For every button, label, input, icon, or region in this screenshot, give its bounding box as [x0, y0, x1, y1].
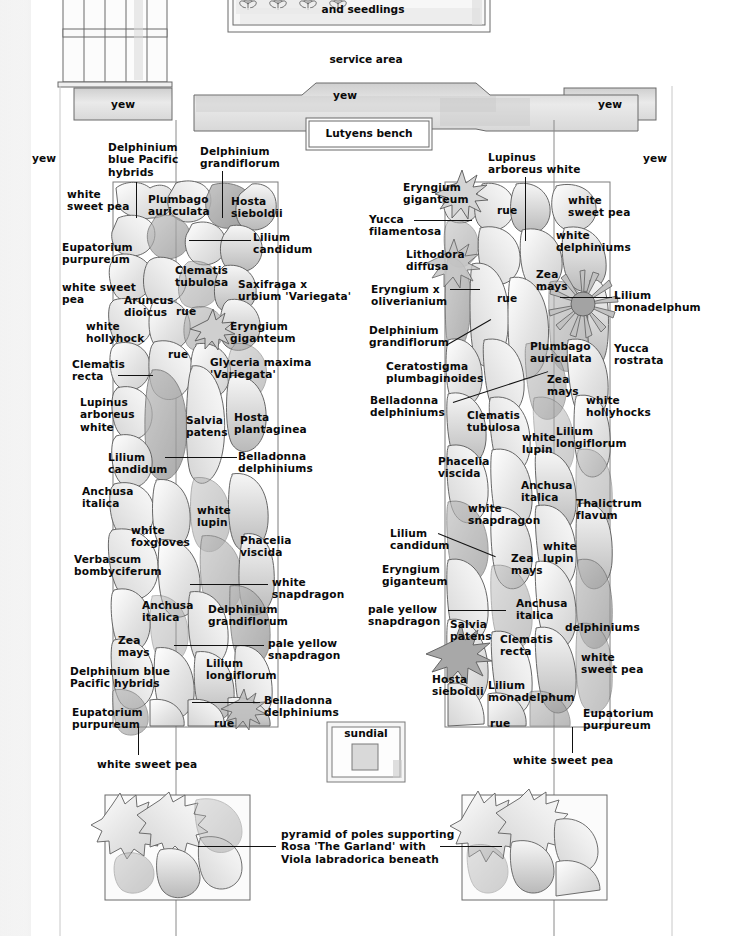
plant-label-l32: Zea mays	[118, 634, 150, 659]
seed-house-label: and seedlings	[288, 3, 438, 15]
plant-label-l24: white lupin	[197, 504, 231, 529]
cold-frame-structure	[58, 0, 172, 87]
plant-label-r07: Lithodora diffusa	[406, 248, 465, 273]
plant-label-r38: Eupatorium purpureum	[583, 707, 654, 732]
leader-line-l35	[192, 702, 260, 703]
plant-label-l14: white hollyhock	[86, 320, 144, 345]
sundial-label: sundial	[327, 727, 405, 739]
plant-label-r17: Belladonna delphiniums	[370, 394, 445, 419]
plant-label-l01: Delphinium blue Pacific hybrids	[108, 141, 179, 178]
plant-label-l13: Eryngium giganteum	[230, 320, 296, 345]
plant-label-l28: white snapdragon	[272, 576, 344, 601]
leader-line-l01	[136, 182, 137, 218]
garden-plan-canvas: and seedlings service area Lutyens bench…	[0, 0, 731, 936]
plant-label-l02: Delphinium grandiflorum	[200, 145, 280, 170]
plant-label-l27: Verbascum bombyciferum	[74, 553, 162, 578]
plant-label-l09: Saxifraga x urbium 'Variegata'	[238, 278, 351, 303]
plant-label-r39: rue	[490, 717, 510, 729]
plant-label-r15: Ceratostigma plumbaginoides	[386, 360, 483, 385]
plant-label-r14: Yucca rostrata	[614, 342, 664, 367]
plant-label-l20: Hosta plantaginea	[234, 411, 307, 436]
plant-label-r13: Plumbago auriculata	[530, 340, 592, 365]
plant-label-l12: rue	[176, 305, 196, 317]
leader-line-l06	[189, 240, 251, 241]
plant-label-l30: Delphinium grandiflorum	[208, 603, 288, 628]
pyramid-left-leader	[198, 846, 276, 847]
plant-label-l06: Lilium candidum	[253, 231, 313, 256]
leader-line-l02	[222, 171, 223, 218]
plant-label-r40: white sweet pea	[513, 754, 613, 766]
plant-label-r31: pale yellow snapdragon	[368, 603, 440, 628]
plant-label-l34: Delphinium blue Pacific hybrids	[70, 665, 170, 690]
plant-label-l18: Lupinus arboreus white	[80, 396, 135, 433]
plant-label-r01: Lupinus arboreus white	[488, 151, 581, 176]
plant-label-r18: white hollyhocks	[586, 394, 651, 419]
leader-line-r11	[560, 297, 612, 298]
yew-edge-left-label: yew	[22, 152, 66, 164]
plant-label-l05: Hosta sieboldii	[231, 195, 283, 220]
plant-label-l21: Belladonna delphiniums	[238, 450, 313, 475]
plant-label-r34: Clematis recta	[500, 633, 553, 658]
lutyens-bench-label: Lutyens bench	[306, 127, 432, 139]
plant-label-r35: white sweet pea	[581, 651, 643, 676]
plant-label-r02: Eryngium giganteum	[403, 181, 469, 206]
plant-label-l15: rue	[168, 348, 188, 360]
yew-hedge-right-label: yew	[564, 98, 656, 110]
plant-label-r16: Zea mays	[547, 373, 579, 398]
plant-label-l38: white sweet pea	[97, 758, 197, 770]
plant-label-r32: delphiniums	[565, 621, 640, 633]
plant-label-r37: Lilium monadelphum	[488, 679, 575, 704]
leader-line-l38	[138, 727, 139, 755]
plant-label-l07: Eupatorium purpureum	[62, 241, 133, 266]
plant-label-r12: Delphinium grandiflorum	[369, 324, 449, 349]
plant-label-l37: rue	[214, 717, 234, 729]
plant-label-l33: Lilium longiflorum	[206, 657, 277, 682]
leader-line-l31	[174, 645, 264, 646]
plant-label-l26: Phacelia viscida	[240, 534, 292, 559]
leader-line-l21	[165, 457, 237, 458]
leader-line-l28	[190, 584, 268, 585]
leader-line-r40	[572, 727, 573, 753]
yew-edge-right-label: yew	[633, 152, 677, 164]
plant-label-r21: Lilium longiflorum	[556, 425, 627, 450]
plant-label-l35: Belladonna delphiniums	[264, 694, 339, 719]
plant-label-l29: Anchusa italica	[142, 599, 194, 624]
plant-label-l16: Glyceria maxima 'Variegata'	[210, 356, 311, 381]
yew-hedge-center-label: yew	[295, 89, 395, 101]
plant-label-r09: Eryngium x oliverianium	[371, 283, 447, 308]
leader-line-r01	[525, 177, 526, 241]
plant-label-l04: Plumbago auriculata	[148, 193, 210, 218]
pyramid-bed-right	[450, 789, 607, 900]
plant-label-l19: Salvia patens	[186, 414, 228, 439]
plant-label-r22: Phacelia viscida	[438, 455, 490, 480]
leader-line-r09	[450, 289, 480, 290]
plant-label-l36: Eupatorium purpureum	[72, 706, 143, 731]
plant-label-r29: Eryngium giganteum	[382, 563, 448, 588]
plant-label-r30: Anchusa italica	[516, 597, 568, 622]
yew-hedge-left-label: yew	[74, 98, 172, 110]
plant-label-r19: Clematis tubulosa	[467, 409, 520, 434]
plant-label-r20: white lupin	[522, 431, 556, 456]
plant-label-r10: rue	[497, 292, 517, 304]
plant-label-l03: white sweet pea	[67, 188, 129, 213]
plant-label-r03: rue	[497, 204, 517, 216]
plant-label-r06: white delphiniums	[556, 229, 631, 254]
service-area-label: service area	[286, 53, 446, 65]
leader-line-r31	[448, 610, 506, 611]
plant-label-l22: Lilium candidum	[108, 451, 168, 476]
plant-label-l31: pale yellow snapdragon	[268, 637, 340, 662]
plant-label-r04: white sweet pea	[568, 194, 630, 219]
plant-label-r23: Anchusa italica	[521, 479, 573, 504]
plant-label-r05: Yucca filamentosa	[369, 213, 441, 238]
plant-label-r33: Salvia patens	[450, 618, 492, 643]
plant-label-r36: Hosta sieboldii	[432, 673, 484, 698]
plant-label-r25: white snapdragon	[468, 502, 540, 527]
pyramid-of-poles-note: pyramid of poles supporting Rosa 'The Ga…	[281, 828, 454, 865]
plant-label-r24: Thalictrum flavum	[576, 497, 642, 522]
plant-label-r11: Lilium monadelphum	[614, 289, 701, 314]
plant-label-l17: Clematis recta	[72, 358, 125, 383]
plant-label-r28: white lupin	[543, 540, 577, 565]
plant-label-l08: Clematis tubulosa	[175, 264, 228, 289]
plant-label-l25: white foxgloves	[131, 524, 190, 549]
plant-label-l11: Aruncus dioicus	[124, 294, 174, 319]
